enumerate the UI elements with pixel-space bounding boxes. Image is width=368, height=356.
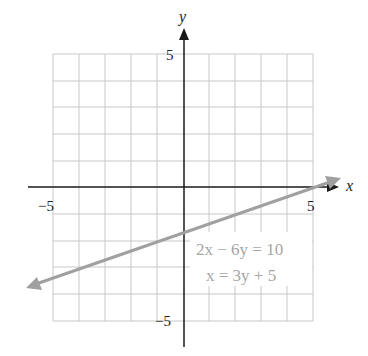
x-pos-tick-label: 5	[307, 198, 315, 214]
equation-standard-form: 2x − 6y = 10	[196, 240, 283, 259]
equation-solved-form: x = 3y + 5	[206, 266, 276, 285]
y-axis-label: y	[177, 8, 187, 26]
y-pos-tick-label: 5	[166, 47, 174, 63]
x-axis-label: x	[345, 177, 353, 194]
x-neg-tick-label: −5	[38, 198, 54, 214]
y-neg-tick-label: −5	[155, 313, 171, 329]
y-axis-arrow-icon	[179, 28, 189, 40]
coordinate-plane: −5 5 5 −5 x y 2x − 6y = 10 x = 3y + 5	[0, 0, 368, 356]
